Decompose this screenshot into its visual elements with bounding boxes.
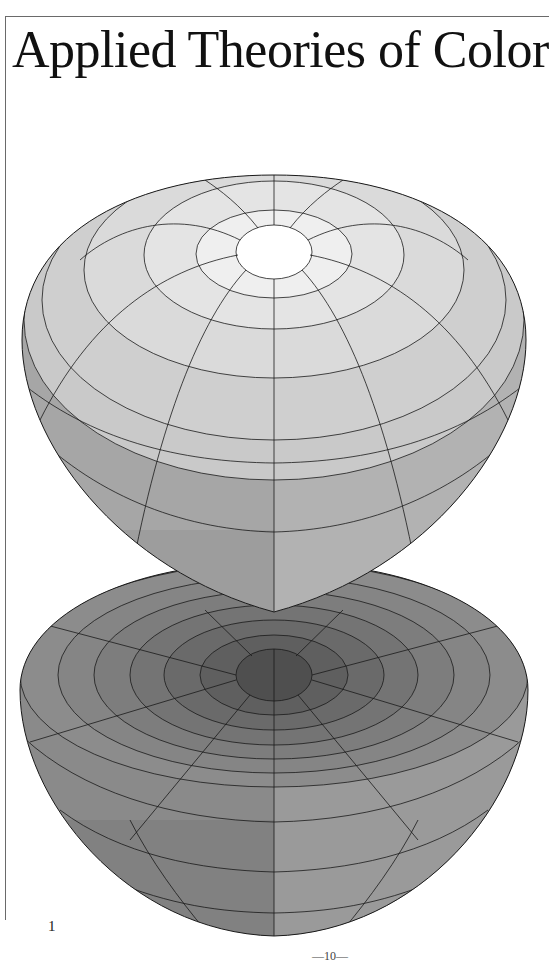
figure-number: 1	[48, 918, 56, 935]
upper-hemisphere	[0, 160, 549, 620]
color-solid-figure	[0, 0, 549, 965]
page-number: —10—	[312, 949, 348, 964]
